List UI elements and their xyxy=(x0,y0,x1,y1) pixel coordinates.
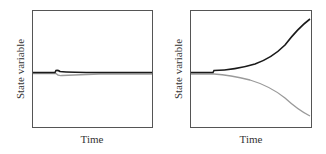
left-lower-line xyxy=(33,74,152,76)
left-y-axis-label: State variable xyxy=(14,39,26,99)
figure: State variable Time State variable Time xyxy=(0,0,326,154)
left-upper-line xyxy=(33,70,152,72)
right-plot-frame xyxy=(191,11,312,128)
left-x-axis-label: Time xyxy=(81,133,104,145)
right-panel: State variable Time xyxy=(172,11,312,146)
right-x-axis-label: Time xyxy=(240,133,263,145)
left-plot-frame xyxy=(33,11,153,128)
left-panel: State variable Time xyxy=(14,11,153,146)
right-upper-line xyxy=(191,19,310,73)
right-y-axis-label: State variable xyxy=(172,39,184,99)
right-lower-line xyxy=(191,74,310,116)
